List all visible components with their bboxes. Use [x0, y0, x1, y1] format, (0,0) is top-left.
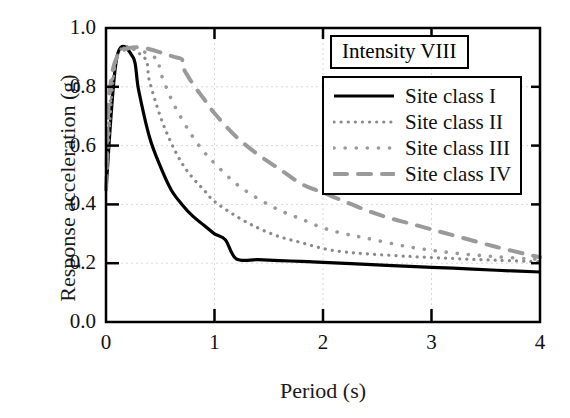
legend-label: Site class II	[405, 112, 503, 133]
y-tick-label: 1.0	[38, 15, 96, 40]
legend-box: Site class I Site class II Site class II…	[322, 76, 522, 195]
legend-swatch-site-class-iii	[333, 141, 395, 155]
legend-item: Site class II	[333, 109, 511, 135]
legend-label: Site class III	[405, 138, 510, 159]
legend-swatch-site-class-i	[333, 89, 395, 103]
x-tick-label: 0	[86, 330, 126, 355]
y-tick-label: 0.8	[38, 74, 96, 99]
y-tick-label: 0.4	[38, 191, 96, 216]
x-axis-title: Period (s)	[105, 378, 541, 404]
x-tick-label: 1	[195, 330, 235, 355]
legend-item: Site class III	[333, 135, 511, 161]
y-tick-label: 0.2	[38, 250, 96, 275]
y-tick-label: 0.6	[38, 133, 96, 158]
legend-label: Site class I	[405, 86, 496, 107]
x-tick-label: 2	[303, 330, 343, 355]
legend-swatch-site-class-ii	[333, 115, 395, 129]
legend-label: Site class IV	[405, 164, 511, 185]
intensity-annotation-box: Intensity VIII	[330, 35, 469, 69]
legend-item: Site class I	[333, 83, 511, 109]
legend-item: Site class IV	[333, 161, 511, 187]
x-tick-label: 4	[520, 330, 560, 355]
response-spectrum-chart: Response acceleration (g) Period (s) 0.0…	[0, 0, 570, 418]
x-tick-label: 3	[412, 330, 452, 355]
legend-swatch-site-class-iv	[333, 167, 395, 181]
